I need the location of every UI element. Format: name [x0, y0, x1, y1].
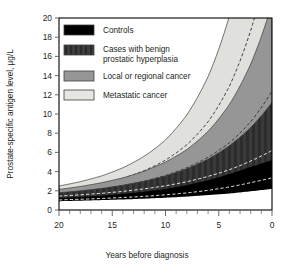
x-tick-label: 20 — [54, 220, 64, 230]
controls-swatch — [64, 25, 94, 35]
y-tick-label: 6 — [47, 147, 52, 157]
x-tick-label: 0 — [270, 220, 275, 230]
metastatic-swatch — [64, 90, 94, 100]
y-tick-label: 0 — [47, 205, 52, 215]
x-tick-label: 15 — [108, 220, 118, 230]
x-tick-label: 10 — [161, 220, 171, 230]
x-tick-label: 5 — [216, 220, 221, 230]
y-tick-label: 18 — [43, 32, 53, 42]
bph-swatch — [64, 45, 94, 55]
y-axis-title: Prostate-specific antigen level, µg/L — [6, 49, 15, 179]
y-tick-label: 4 — [47, 167, 52, 177]
legend-label-metastatic: Metastatic cancer — [103, 91, 167, 100]
y-tick-label: 14 — [43, 71, 53, 81]
legend-label-bph-line2: prostatic hyperplasia — [103, 55, 179, 64]
legend-label-controls: Controls — [103, 26, 134, 35]
legend-label-local-regional: Local or regional cancer — [103, 72, 191, 81]
y-tick-label: 20 — [43, 13, 53, 23]
psa-chart-figure: 02468101214161820 05101520 Years before … — [0, 0, 295, 273]
chart-canvas: 02468101214161820 05101520 Years before … — [0, 0, 295, 273]
x-axis-title: Years before diagnosis — [106, 251, 189, 260]
legend-label-bph-line1: Cases with benign — [103, 45, 170, 54]
y-tick-label: 8 — [47, 128, 52, 138]
local-regional-swatch — [64, 71, 94, 81]
y-tick-label: 12 — [43, 90, 53, 100]
y-tick-label: 2 — [47, 186, 52, 196]
y-tick-label: 16 — [43, 51, 53, 61]
y-tick-label: 10 — [43, 109, 53, 119]
